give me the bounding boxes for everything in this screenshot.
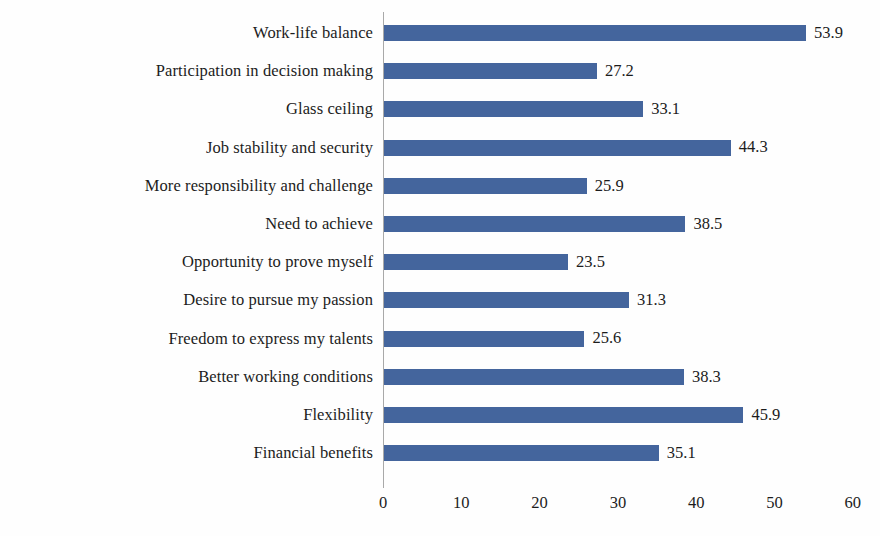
bar-value-label: 45.9 xyxy=(751,407,780,424)
category-label: Opportunity to prove myself xyxy=(182,254,373,271)
bar-row: Work-life balance53.9 xyxy=(0,14,880,52)
bar-row: Glass ceiling33.1 xyxy=(0,90,880,128)
x-tick-label: 50 xyxy=(766,495,783,512)
bar-with-label: 25.9 xyxy=(384,178,624,194)
bar-value-label: 25.9 xyxy=(595,178,624,195)
bar-row: Financial benefits35.1 xyxy=(0,434,880,472)
bar xyxy=(384,292,629,308)
bar-value-label: 35.1 xyxy=(667,445,696,462)
bar-row: Better working conditions38.3 xyxy=(0,358,880,396)
bar-with-label: 38.5 xyxy=(384,216,722,232)
bar-value-label: 23.5 xyxy=(576,254,605,271)
category-label: Flexibility xyxy=(303,407,373,424)
category-label: Desire to pursue my passion xyxy=(183,292,373,309)
bar-with-label: 53.9 xyxy=(384,25,843,41)
bar-with-label: 44.3 xyxy=(384,140,768,156)
bar xyxy=(384,369,684,385)
category-label: Freedom to express my talents xyxy=(168,330,373,347)
bar-row: Flexibility45.9 xyxy=(0,396,880,434)
bar xyxy=(384,407,743,423)
bar-value-label: 38.3 xyxy=(692,369,721,386)
bar-row: Participation in decision making27.2 xyxy=(0,52,880,90)
x-axis: 0102030405060 xyxy=(0,489,880,529)
bar-with-label: 35.1 xyxy=(384,445,696,461)
bar-chart: Work-life balance53.9Participation in de… xyxy=(0,0,880,536)
bar xyxy=(384,178,587,194)
x-tick-label: 0 xyxy=(379,495,387,512)
bar xyxy=(384,216,685,232)
bar xyxy=(384,331,584,347)
category-label: Better working conditions xyxy=(198,369,373,386)
category-label: Financial benefits xyxy=(253,445,373,462)
x-tick-label: 60 xyxy=(845,495,862,512)
bar-row: Need to achieve38.5 xyxy=(0,205,880,243)
category-label: Need to achieve xyxy=(265,216,373,233)
bar-value-label: 38.5 xyxy=(693,216,722,233)
bar-row: Job stability and security44.3 xyxy=(0,129,880,167)
bar xyxy=(384,63,597,79)
bar-value-label: 44.3 xyxy=(739,139,768,156)
category-label: Work-life balance xyxy=(253,25,373,42)
bar-with-label: 38.3 xyxy=(384,369,721,385)
category-label: Glass ceiling xyxy=(286,101,373,118)
plot-area: Work-life balance53.9Participation in de… xyxy=(0,0,880,490)
bar-row: Freedom to express my talents25.6 xyxy=(0,320,880,358)
bar-row: More responsibility and challenge25.9 xyxy=(0,167,880,205)
bar-value-label: 25.6 xyxy=(592,330,621,347)
bar-row: Opportunity to prove myself23.5 xyxy=(0,243,880,281)
bar-value-label: 33.1 xyxy=(651,101,680,118)
bar xyxy=(384,254,568,270)
bar-value-label: 27.2 xyxy=(605,63,634,80)
bar-with-label: 23.5 xyxy=(384,254,605,270)
category-label: More responsibility and challenge xyxy=(145,178,373,195)
bar-with-label: 25.6 xyxy=(384,331,621,347)
bar-with-label: 27.2 xyxy=(384,63,634,79)
bar xyxy=(384,140,731,156)
category-label: Job stability and security xyxy=(206,139,373,156)
bar-with-label: 45.9 xyxy=(384,407,780,423)
x-tick-label: 30 xyxy=(610,495,627,512)
bar-row: Desire to pursue my passion31.3 xyxy=(0,281,880,319)
bar-with-label: 31.3 xyxy=(384,292,666,308)
x-tick-label: 10 xyxy=(453,495,470,512)
category-label: Participation in decision making xyxy=(156,63,373,80)
x-tick-label: 20 xyxy=(531,495,548,512)
x-tick-label: 40 xyxy=(688,495,705,512)
bar xyxy=(384,25,806,41)
bar-value-label: 31.3 xyxy=(637,292,666,309)
bar xyxy=(384,101,643,117)
bar-value-label: 53.9 xyxy=(814,25,843,42)
bar xyxy=(384,445,659,461)
bar-with-label: 33.1 xyxy=(384,101,680,117)
